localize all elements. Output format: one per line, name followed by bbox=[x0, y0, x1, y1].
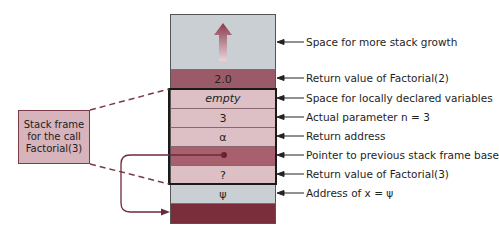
annotation-locals: Space for locally declared variables bbox=[306, 92, 493, 104]
annotation-address-x: Address of x = ψ bbox=[306, 187, 393, 199]
callout-line-2: for the call bbox=[19, 131, 89, 143]
annotation-return-address: Return address bbox=[306, 130, 385, 142]
annotation-return-factorial-3: Return value of Factorial(3) bbox=[306, 168, 449, 180]
stack-frame-callout: Stack frame for the call Factorial(3) bbox=[18, 110, 90, 164]
annotation-prev-frame-pointer: Pointer to previous stack frame base bbox=[306, 149, 499, 161]
callout-line-1: Stack frame bbox=[19, 119, 89, 131]
annotation-growth: Space for more stack growth bbox=[306, 36, 457, 48]
annotation-param: Actual parameter n = 3 bbox=[306, 111, 430, 123]
callout-line-3: Factorial(3) bbox=[19, 143, 89, 155]
annotation-return-factorial-2: Return value of Factorial(2) bbox=[306, 72, 449, 84]
